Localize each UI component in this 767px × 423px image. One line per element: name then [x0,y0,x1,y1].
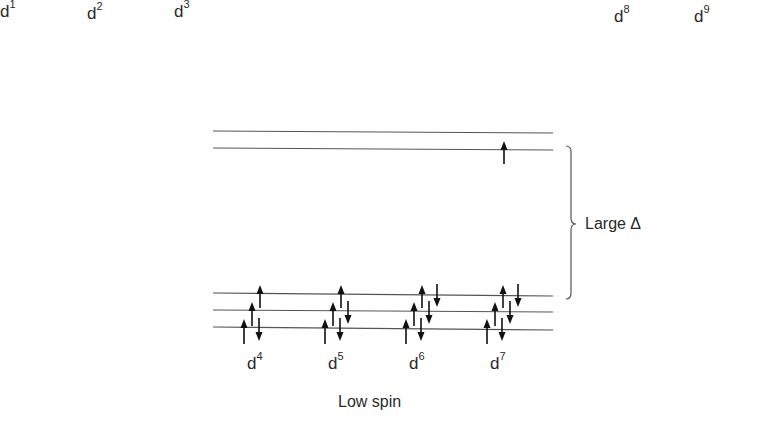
electron-up-arrow [419,285,426,308]
electron-up-arrow [241,319,248,344]
config-label-d6: d6 [409,355,425,372]
config-label-d7: d7 [490,355,506,372]
electron-up-arrow [338,285,345,308]
electron-up-arrow [500,285,507,308]
label-superscript: 6 [418,350,424,362]
electron-up-arrow [484,319,491,344]
low-spin-caption: Low spin [338,394,401,410]
electron-down-arrow [345,301,352,324]
electron-up-arrow [322,319,329,344]
config-label-d4: d4 [247,355,263,372]
electron-down-arrow [426,301,433,324]
label-superscript: 4 [256,350,262,362]
label-superscript: 5 [337,350,343,362]
electron-up-arrow [403,319,410,344]
electron-up-arrow [492,302,499,326]
eg-level-upper [213,131,553,133]
electron-up-arrow [330,302,337,326]
crystal-field-diagram [0,0,767,423]
electron-down-arrow [507,301,514,324]
d7-electrons [484,284,522,344]
label-superscript: 7 [499,350,505,362]
electron-down-arrow [256,318,263,341]
t2g-level-middle [213,310,553,312]
d6-electrons [403,284,441,344]
electron-down-arrow [418,318,425,341]
electron-up-arrow [501,141,508,164]
electron-up-arrow [411,302,418,326]
curly-brace-icon [566,146,576,299]
config-label-d5: d5 [328,355,344,372]
electron-down-arrow [337,318,344,341]
electron-up-arrow [257,285,264,308]
large-delta-label: Large Δ [585,216,641,232]
electron-up-arrow [249,302,256,326]
